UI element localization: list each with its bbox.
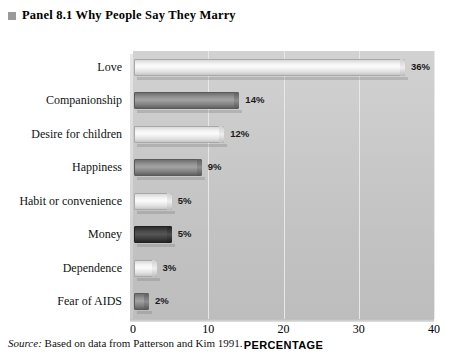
- bar: [134, 159, 202, 176]
- x-tick-label: 0: [130, 322, 136, 337]
- bar: [134, 126, 224, 143]
- category-label: Dependence: [63, 261, 122, 276]
- bar-shadow: [137, 177, 205, 180]
- bar-value-label: 14%: [245, 94, 264, 105]
- bar-value-label: 36%: [411, 61, 430, 72]
- bar-row: Companionship14%: [0, 90, 451, 112]
- source-note: Source: Based on data from Patterson and…: [8, 337, 243, 349]
- bar: [134, 293, 149, 310]
- bar-shadow: [137, 278, 160, 281]
- category-label: Love: [97, 60, 122, 75]
- x-tick-label: 20: [278, 322, 290, 337]
- bar-shadow: [137, 244, 175, 247]
- source-label: Source:: [8, 337, 42, 349]
- bar-end-cap: [197, 159, 202, 176]
- bar-shadow: [137, 77, 408, 80]
- bar-row: Love36%: [0, 57, 451, 79]
- category-label: Habit or convenience: [19, 194, 122, 209]
- bar-end-cap: [234, 92, 239, 109]
- page-title: Panel 8.1 Why People Say They Marry: [22, 8, 236, 23]
- bar: [134, 193, 172, 210]
- category-label: Money: [88, 227, 122, 242]
- bar-wrapper: [134, 59, 405, 76]
- bar-row: Happiness9%: [0, 157, 451, 179]
- bar: [134, 226, 172, 243]
- bar-end-cap: [167, 226, 172, 243]
- x-tick-label: 40: [428, 322, 440, 337]
- panel-title: Panel 8.1 Why People Say They Marry: [8, 8, 236, 23]
- bar-value-label: 5%: [178, 195, 192, 206]
- bar-value-label: 3%: [163, 262, 177, 273]
- bar-end-cap: [219, 126, 224, 143]
- category-label: Desire for children: [31, 127, 122, 142]
- category-label: Companionship: [46, 93, 122, 108]
- bar: [134, 260, 157, 277]
- square-bullet-icon: [8, 12, 16, 20]
- chart-figure: Love36%Companionship14%Desire for childr…: [0, 26, 451, 318]
- bar-row: Dependence3%: [0, 258, 451, 280]
- bar-wrapper: [134, 293, 149, 310]
- bar-end-cap: [152, 260, 157, 277]
- bar-shadow: [137, 110, 242, 113]
- bar-value-label: 2%: [155, 295, 169, 306]
- bar: [134, 59, 405, 76]
- bar-value-label: 12%: [230, 128, 249, 139]
- bar-value-label: 9%: [208, 161, 222, 172]
- bar-wrapper: [134, 226, 172, 243]
- bar-wrapper: [134, 193, 172, 210]
- source-text: Based on data from Patterson and Kim 199…: [42, 337, 243, 349]
- bar-row: Desire for children12%: [0, 124, 451, 146]
- bar-shadow: [137, 211, 175, 214]
- bar-wrapper: [134, 92, 239, 109]
- x-tick-label: 30: [353, 322, 365, 337]
- category-label: Fear of AIDS: [57, 294, 122, 309]
- bar-shadow: [137, 144, 227, 147]
- bar-end-cap: [144, 293, 149, 310]
- bar: [134, 92, 239, 109]
- x-tick-label: 10: [202, 322, 214, 337]
- bar-end-cap: [167, 193, 172, 210]
- bar-wrapper: [134, 126, 224, 143]
- bar-shadow: [137, 311, 152, 314]
- bar-row: Money5%: [0, 224, 451, 246]
- bar-wrapper: [134, 159, 202, 176]
- bar-row: Fear of AIDS2%: [0, 291, 451, 313]
- bar-row: Habit or convenience5%: [0, 191, 451, 213]
- bar-wrapper: [134, 260, 157, 277]
- category-label: Happiness: [72, 160, 122, 175]
- bar-value-label: 5%: [178, 228, 192, 239]
- bar-end-cap: [400, 59, 405, 76]
